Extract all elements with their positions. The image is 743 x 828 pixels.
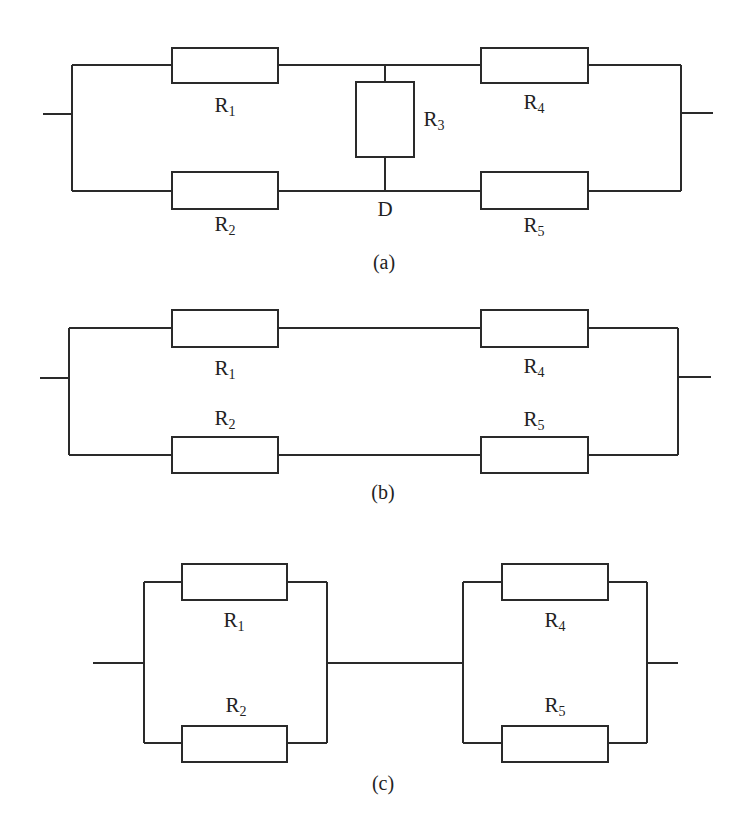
label-r1-a: R1 xyxy=(214,95,235,119)
panel-a-circuit xyxy=(43,48,713,209)
resistor-r1-a xyxy=(172,48,278,83)
resistor-r1-b xyxy=(172,310,278,347)
label-r2-b: R2 xyxy=(214,408,235,432)
label-r1-c: R1 xyxy=(223,610,244,634)
label-r4-b: R4 xyxy=(523,356,544,380)
label-r2-a: R2 xyxy=(214,214,235,238)
label-r5-b: R5 xyxy=(523,409,544,433)
resistor-r2-b xyxy=(172,437,278,473)
caption-a: (a) xyxy=(373,252,395,272)
label-r4-c: R4 xyxy=(544,610,565,634)
label-r3-a: R3 xyxy=(423,109,444,133)
resistor-r1-c xyxy=(182,564,287,600)
resistor-r3-a xyxy=(356,82,414,157)
label-r5-c: R5 xyxy=(544,695,565,719)
caption-c: (c) xyxy=(372,773,394,793)
label-r1-b: R1 xyxy=(214,358,235,382)
node-label-d: D xyxy=(377,199,392,220)
resistor-r5-c xyxy=(502,726,608,762)
panel-b-circuit xyxy=(40,310,711,473)
caption-b: (b) xyxy=(371,482,394,502)
circuit-drawing xyxy=(0,0,743,828)
resistor-r5-a xyxy=(481,172,588,209)
label-r5-a: R5 xyxy=(523,215,544,239)
resistor-r2-c xyxy=(182,726,287,762)
label-r2-c: R2 xyxy=(225,695,246,719)
label-r4-a: R4 xyxy=(523,92,544,116)
resistor-r4-a xyxy=(481,48,588,83)
panel-c-circuit xyxy=(93,564,678,762)
resistor-r4-c xyxy=(502,564,608,600)
circuit-figure: R1 R2 R3 R4 R5 D (a) R1 R2 R4 R5 (b) R1 … xyxy=(0,0,743,828)
resistor-r2-a xyxy=(172,172,278,209)
resistor-r4-b xyxy=(481,310,588,347)
resistor-r5-b xyxy=(481,437,588,473)
